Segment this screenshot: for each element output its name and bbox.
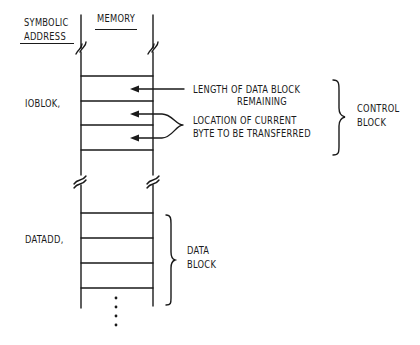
continuation-dot-3 — [115, 315, 118, 318]
data-block-label-line1: DATA — [187, 244, 209, 256]
control-block-brace — [333, 80, 345, 155]
memory-layout-diagram — [0, 0, 420, 345]
address-ioblok: IOBLOK, — [25, 97, 60, 109]
annotation-length-line1: LENGTH OF DATA BLOCK — [193, 83, 300, 95]
break-mark-mid-left — [74, 176, 86, 188]
length-arrowhead-icon — [130, 86, 139, 93]
annotation-location-line1: LOCATION OF CURRENT — [193, 114, 297, 126]
header-symbolic-address-underline — [20, 43, 74, 44]
header-symbolic-address-line2: ADDRESS — [24, 30, 66, 42]
control-block-label-line1: CONTROL — [357, 102, 399, 114]
continuation-dot-1 — [115, 297, 118, 300]
annotation-location-line2: BYTE TO BE TRANSFERRED — [193, 127, 311, 139]
address-datadd: DATADD, — [25, 233, 64, 245]
header-symbolic-address-line1: SYMBOLIC — [24, 16, 69, 28]
data-block-label-line2: BLOCK — [187, 258, 216, 270]
location-arrowhead-upper-icon — [130, 111, 139, 118]
annotation-length-line2: REMAINING — [237, 95, 287, 107]
continuation-dot-2 — [115, 306, 118, 309]
control-block-label-line2: BLOCK — [357, 116, 386, 128]
header-memory-underline — [95, 29, 137, 30]
location-arrowhead-lower-icon — [130, 135, 139, 142]
data-block-brace — [166, 215, 175, 305]
header-memory: MEMORY — [97, 12, 135, 24]
location-fork-arrow — [136, 114, 183, 138]
continuation-dot-4 — [115, 324, 118, 327]
